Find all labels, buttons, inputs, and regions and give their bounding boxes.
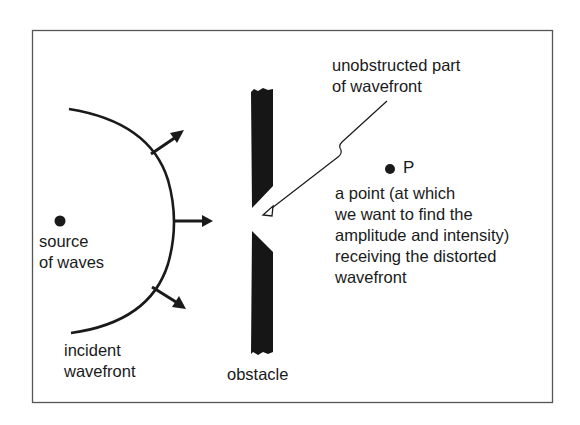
source-dot	[55, 216, 66, 227]
arrow-down-right-icon	[152, 287, 176, 302]
source-label: source of waves	[39, 231, 104, 273]
arrow-up-right-icon	[151, 137, 176, 154]
obstacle-lower-part	[251, 231, 273, 355]
arrowhead-right-icon	[202, 215, 213, 227]
point-p-dot	[385, 164, 395, 174]
point-p-label: P	[403, 157, 414, 178]
obstacle	[251, 88, 273, 355]
unobstructed-label: unobstructed part of wavefront	[332, 55, 460, 97]
obstacle-upper-part	[251, 88, 273, 208]
incident-wavefront-label: incident wavefront	[64, 340, 136, 382]
hollow-arrowhead-icon	[263, 206, 273, 216]
point-description: a point (at which we want to find the am…	[335, 183, 509, 288]
obstacle-label: obstacle	[227, 364, 288, 385]
incident-wavefront-arc	[69, 109, 174, 333]
